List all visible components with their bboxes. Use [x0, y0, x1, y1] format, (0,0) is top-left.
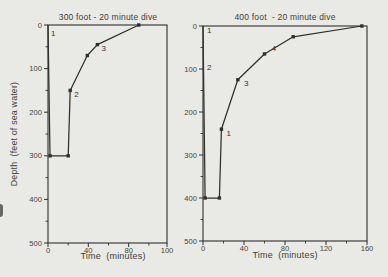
- point-label-1: 1: [227, 129, 231, 138]
- y-tick-label: 400: [165, 194, 197, 203]
- point-label-1: 1: [207, 26, 211, 35]
- data-point-marker: [86, 54, 89, 57]
- dive-profile-plots: [0, 0, 388, 277]
- y-tick-label: 300: [165, 151, 197, 160]
- dive-profile-line: [203, 26, 362, 198]
- dive-profile-line: [48, 25, 139, 156]
- x-tick-label: 160: [354, 244, 380, 253]
- data-point-marker: [236, 78, 239, 81]
- plot-border: [48, 25, 167, 243]
- x-tick-label: 80: [116, 246, 142, 255]
- x-tick-label: 120: [313, 244, 339, 253]
- point-label-3: 3: [101, 44, 105, 53]
- point-label-1: 1: [51, 29, 55, 38]
- data-point-marker: [203, 196, 206, 199]
- data-point-marker: [360, 24, 363, 27]
- chart-title-300ft: 300 foot - 20 minute dive: [48, 12, 168, 22]
- data-point-marker: [263, 52, 266, 55]
- x-tick-label: 80: [272, 244, 298, 253]
- data-point-marker: [48, 154, 51, 157]
- x-tick-label: 100: [154, 246, 180, 255]
- point-label-2: 2: [207, 63, 211, 72]
- data-point-marker: [66, 154, 69, 157]
- y-tick-label: 200: [10, 108, 42, 117]
- x-tick-label: 0: [190, 244, 216, 253]
- chart-title-400ft: 400 foot - 20 minute dive: [203, 12, 367, 22]
- y-tick-label: 0: [165, 22, 197, 31]
- data-point-marker: [96, 43, 99, 46]
- y-tick-label: 0: [10, 21, 42, 30]
- data-point-marker: [220, 128, 223, 131]
- y-tick-label: 200: [165, 108, 197, 117]
- x-tick-label: 40: [231, 244, 257, 253]
- y-axis-label: Depth (feet of sea water): [9, 82, 19, 186]
- y-tick-label: 300: [10, 151, 42, 160]
- data-point-marker: [137, 23, 140, 26]
- point-label-3: 3: [244, 79, 248, 88]
- y-tick-label: 100: [10, 64, 42, 73]
- y-tick-label: 100: [165, 65, 197, 74]
- x-tick-label: 0: [35, 246, 61, 255]
- point-label-4: 4: [272, 44, 276, 53]
- y-tick-label: 400: [10, 195, 42, 204]
- scan-smudge: [0, 204, 3, 217]
- data-point-marker: [218, 196, 221, 199]
- data-point-marker: [292, 35, 295, 38]
- point-label-2: 2: [74, 90, 78, 99]
- data-point-marker: [68, 89, 71, 92]
- scanned-dive-figure: 300 foot - 20 minute dive 400 foot - 20 …: [0, 0, 388, 277]
- x-tick-label: 40: [75, 246, 101, 255]
